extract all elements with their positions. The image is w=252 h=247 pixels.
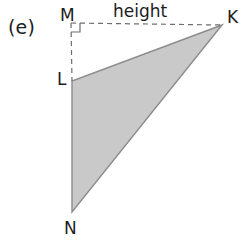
figure-canvas (0, 0, 252, 247)
height-label: height (113, 3, 167, 20)
triangle-kln (72, 25, 222, 212)
vertex-label-n: N (64, 220, 77, 237)
dashed-line-m-to-k (71, 23, 222, 25)
geometry-figure: (e) M height K L N (0, 0, 252, 247)
vertex-label-m: M (60, 7, 75, 24)
vertex-label-k: K (227, 9, 238, 26)
part-label: (e) (8, 18, 35, 37)
vertex-label-l: L (57, 71, 66, 88)
